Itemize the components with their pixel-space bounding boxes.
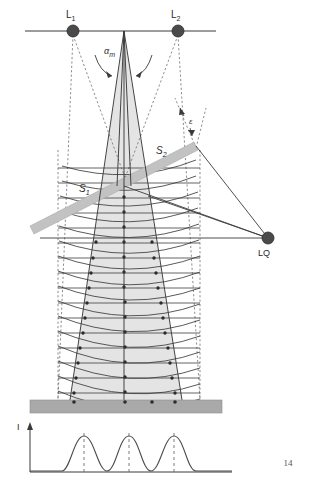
slit-one-label: S1: [79, 183, 90, 196]
page-number: 14: [284, 458, 294, 468]
light-source-label: LQ: [258, 248, 270, 258]
lens-point-left[interactable]: [67, 25, 79, 37]
intensity-axis-label: I: [17, 422, 20, 432]
y-axis-arrow-head: [27, 422, 33, 430]
intensity-plot: I: [17, 422, 232, 472]
peak-center-dashes: [84, 432, 174, 472]
interference-diagram-svg: I L1 L2 αm ε S1 S2 LQ 14: [0, 0, 310, 490]
epsilon-angle-label: ε: [189, 117, 193, 126]
lens-left-label: L1: [66, 9, 76, 22]
alpha-angle-label: αm: [104, 46, 115, 58]
intensity-curve: [30, 436, 232, 471]
lens-right-label: L2: [171, 9, 181, 22]
figure-container: I L1 L2 αm ε S1 S2 LQ 14: [0, 0, 310, 490]
slit-two-label: S2: [156, 145, 167, 158]
epsilon-angle-arrows: [179, 108, 195, 136]
light-source-point[interactable]: [262, 232, 274, 244]
lens-point-right[interactable]: [172, 25, 184, 37]
